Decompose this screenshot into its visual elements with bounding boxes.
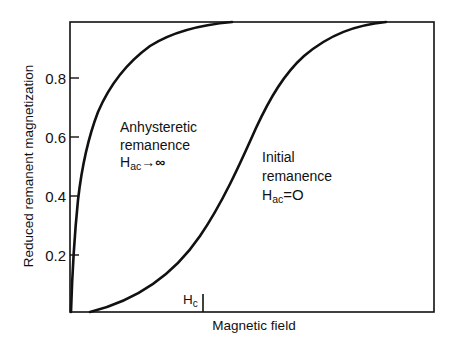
- anhysteretic-label-line1: Anhysteretic: [120, 119, 197, 135]
- initial-annotation: Initial remanence Hac=O: [262, 149, 332, 205]
- hc-marker-label: Hc: [183, 292, 198, 309]
- y-tick-label-0.2: 0.2: [45, 247, 66, 264]
- y-tick-label-0.6: 0.6: [45, 129, 66, 146]
- x-axis-label: Magnetic field: [212, 318, 295, 333]
- anhysteretic-label-line3: Hac→∞: [120, 154, 165, 172]
- initial-label-line2: remanence: [262, 168, 332, 184]
- y-tick-label-0.4: 0.4: [45, 188, 66, 205]
- initial-label-line1: Initial: [262, 149, 295, 165]
- anhysteretic-label-line2: remanence: [120, 137, 190, 153]
- initial-label-line3: Hac=O: [262, 186, 304, 205]
- y-axis-label: Reduced remanent magnetization: [21, 65, 36, 268]
- anhysteretic-annotation: Anhysteretic remanence Hac→∞: [120, 119, 197, 172]
- y-tick-label-0.8: 0.8: [45, 70, 66, 87]
- remanence-chart: 0.8 0.6 0.4 0.2 Reduced remanent magneti…: [0, 0, 457, 344]
